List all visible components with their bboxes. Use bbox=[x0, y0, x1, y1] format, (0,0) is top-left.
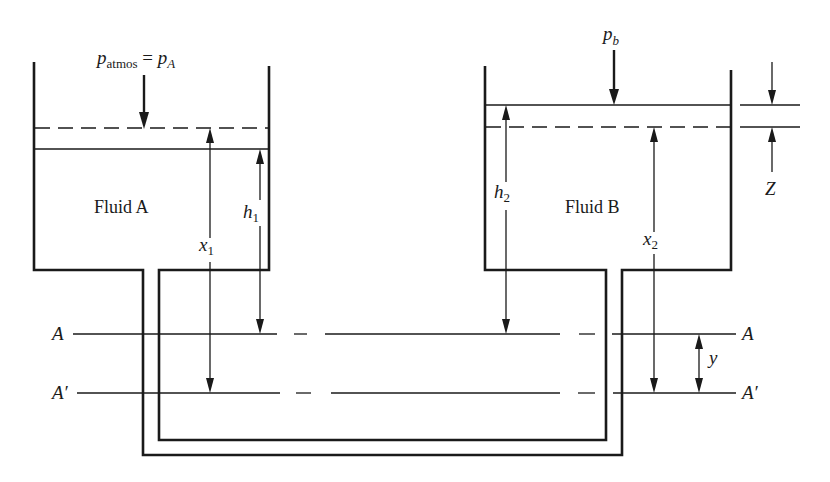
h1-arrow-down-head bbox=[256, 319, 264, 334]
manometer-diagram: patmos = pA pb Fluid A Fluid B x1 h1 h2 … bbox=[0, 0, 830, 482]
y-label: y bbox=[707, 347, 718, 368]
x2-arrow-down-head bbox=[650, 378, 658, 393]
fluid-b-label: Fluid B bbox=[565, 197, 620, 217]
y-arrow-up-head bbox=[695, 334, 703, 349]
z-label: Z bbox=[765, 178, 776, 199]
patm-label: patmos = pA bbox=[95, 47, 175, 71]
h1-arrow-up-head bbox=[256, 149, 264, 164]
a-right-label: A bbox=[740, 323, 754, 344]
h2-arrow-up-head bbox=[502, 105, 510, 120]
x2-label: x2 bbox=[642, 228, 658, 252]
x1-label: x1 bbox=[198, 234, 214, 258]
h2-label: h2 bbox=[494, 181, 510, 205]
diagram-canvas: patmos = pA pb Fluid A Fluid B x1 h1 h2 … bbox=[0, 0, 830, 482]
h1-label: h1 bbox=[243, 201, 259, 225]
y-arrow-down-head bbox=[695, 378, 703, 393]
x2-arrow-up-head bbox=[650, 127, 658, 142]
a-left-label: A bbox=[50, 323, 64, 344]
z-arrow-top-head bbox=[768, 90, 776, 105]
z-arrow-bottom-head bbox=[768, 127, 776, 142]
patm-arrow-head bbox=[139, 112, 149, 129]
fluid-a-label: Fluid A bbox=[94, 197, 149, 217]
u-tube-inner-wall bbox=[159, 66, 606, 440]
pb-arrow-head bbox=[609, 89, 619, 105]
pb-label: pb bbox=[601, 23, 620, 48]
a-prime-left-label: A′ bbox=[50, 382, 69, 403]
left-tank-outer-wall bbox=[34, 62, 731, 455]
x1-arrow-up-head bbox=[206, 128, 214, 143]
x1-arrow-down-head bbox=[206, 378, 214, 393]
h2-arrow-down-head bbox=[502, 319, 510, 334]
a-prime-right-label: A′ bbox=[740, 382, 759, 403]
